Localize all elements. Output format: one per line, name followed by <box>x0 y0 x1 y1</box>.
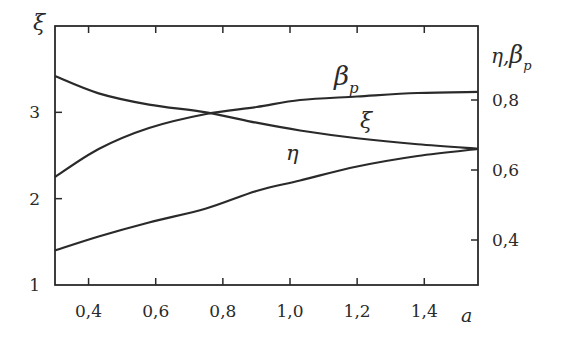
y-left-tick-label: 3 <box>29 102 40 122</box>
labels: ξ η,βp a βp ξ η <box>33 10 532 326</box>
x-tick-label: 1,4 <box>411 301 438 321</box>
x-axis-title: a <box>461 304 472 326</box>
eta-symbol: η <box>491 44 503 68</box>
y-left-tick-label: 2 <box>29 189 40 209</box>
y-right-axis-title: η,βp <box>491 41 532 73</box>
axis-ticks: 0,40,60,81,01,21,41230,40,60,8 <box>29 26 519 321</box>
chart: 0,40,60,81,01,21,41230,40,60,8 ξ η,βp a … <box>0 0 562 343</box>
beta-symbol: β <box>508 41 523 69</box>
x-tick-label: 1,2 <box>344 301 371 321</box>
y-right-tick-label: 0,8 <box>492 90 519 110</box>
x-tick-label: 1,0 <box>276 301 303 321</box>
x-tick-label: 0,8 <box>209 301 236 321</box>
curve-xi <box>55 76 478 149</box>
series-label-beta-p: βp <box>333 61 359 97</box>
series-label-xi: ξ <box>360 108 374 133</box>
y-left-tick-label: 1 <box>29 275 40 295</box>
y-right-tick-label: 0,6 <box>492 160 519 180</box>
y-left-axis-title: ξ <box>33 10 47 35</box>
x-tick-label: 0,6 <box>142 301 169 321</box>
curve-eta <box>55 149 478 251</box>
y-right-tick-label: 0,4 <box>492 230 519 250</box>
x-tick-label: 0,4 <box>75 301 102 321</box>
beta-subscript: p <box>523 58 532 73</box>
curve-beta-p <box>55 92 478 177</box>
series-label-eta: η <box>286 141 299 165</box>
curves <box>55 76 478 250</box>
